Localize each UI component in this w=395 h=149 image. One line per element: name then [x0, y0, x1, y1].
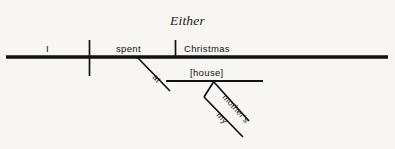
determiner-bracket-line — [204, 82, 214, 97]
sentence-word-either: Either — [170, 14, 205, 28]
diagram-word-verb: spent — [116, 44, 141, 54]
sentence-diagram-page: Either I spent Christmas at [house] moth… — [0, 0, 395, 149]
preposition-slant-line — [137, 57, 170, 91]
diagram-word-subject: I — [46, 44, 49, 54]
diagram-word-direct-object: Christmas — [184, 44, 230, 54]
diagram-word-prepositional-object: [house] — [190, 68, 224, 78]
